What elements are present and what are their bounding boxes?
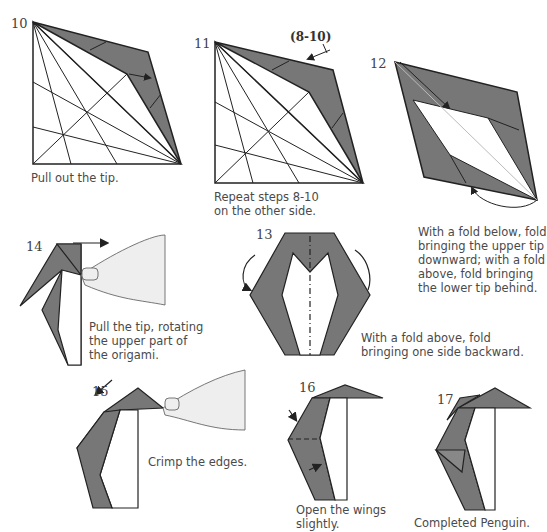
step-13-diagram [243, 233, 370, 355]
step-16-number: 16 [299, 380, 316, 395]
caption-line: on the other side. [214, 204, 319, 218]
step-10-diagram [33, 22, 181, 164]
caption-line: bringing the upper tip [418, 239, 547, 253]
caption-line: With a fold below, fold [418, 225, 547, 239]
step-14-caption: Pull the tip, rotating the upper part of… [89, 320, 203, 362]
step-17-caption: Completed Penguin. [414, 516, 530, 530]
step-17-number: 17 [437, 392, 454, 407]
caption-line: Open the wings [296, 503, 386, 517]
step-13-caption: With a fold above, fold bringing one sid… [361, 331, 524, 359]
caption-line: Pull the tip, rotating [89, 320, 203, 334]
step-12-number: 12 [370, 56, 387, 71]
caption-line: With a fold above, fold [361, 331, 524, 345]
step-11-diagram [215, 42, 363, 183]
caption-line: Repeat steps 8-10 [214, 190, 319, 204]
step-10-caption: Pull out the tip. [31, 171, 119, 185]
caption-line: the lower tip behind. [418, 281, 547, 295]
caption-line: slightly. [296, 517, 386, 531]
caption-line: downward; with a fold [418, 253, 547, 267]
step-16-caption: Open the wings slightly. [296, 503, 386, 531]
step-11-caption: Repeat steps 8-10 on the other side. [214, 190, 319, 218]
step-12-caption: With a fold below, fold bringing the upp… [418, 225, 547, 295]
step-12-diagram [395, 62, 537, 207]
caption-line: bringing one side backward. [361, 345, 524, 359]
step-11-number: 11 [194, 36, 211, 51]
step-15-caption: Crimp the edges. [148, 455, 247, 469]
caption-line: the upper part of [89, 334, 203, 348]
step-14-number: 14 [26, 239, 43, 254]
caption-line: above, fold bringing [418, 267, 547, 281]
caption-line: the origami. [89, 348, 203, 362]
step-16-diagram [288, 385, 383, 500]
step-11-annotation: (8-10) [290, 30, 331, 44]
step-10-number: 10 [11, 16, 28, 31]
step-15-number: 15 [92, 384, 109, 399]
step-13-number: 13 [256, 227, 273, 242]
